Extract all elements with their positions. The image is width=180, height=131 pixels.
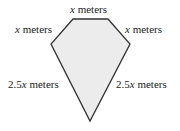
label-lower-right-side: 2.5x meters bbox=[116, 78, 167, 90]
label-upper-left-side: x meters bbox=[15, 23, 52, 35]
label-lower-left-side: 2.5x meters bbox=[8, 78, 59, 90]
label-top-side: x meters bbox=[70, 3, 107, 15]
label-upper-right-side: x meters bbox=[125, 23, 162, 35]
pentagon-shape bbox=[51, 19, 130, 121]
pentagon-figure bbox=[0, 0, 180, 131]
